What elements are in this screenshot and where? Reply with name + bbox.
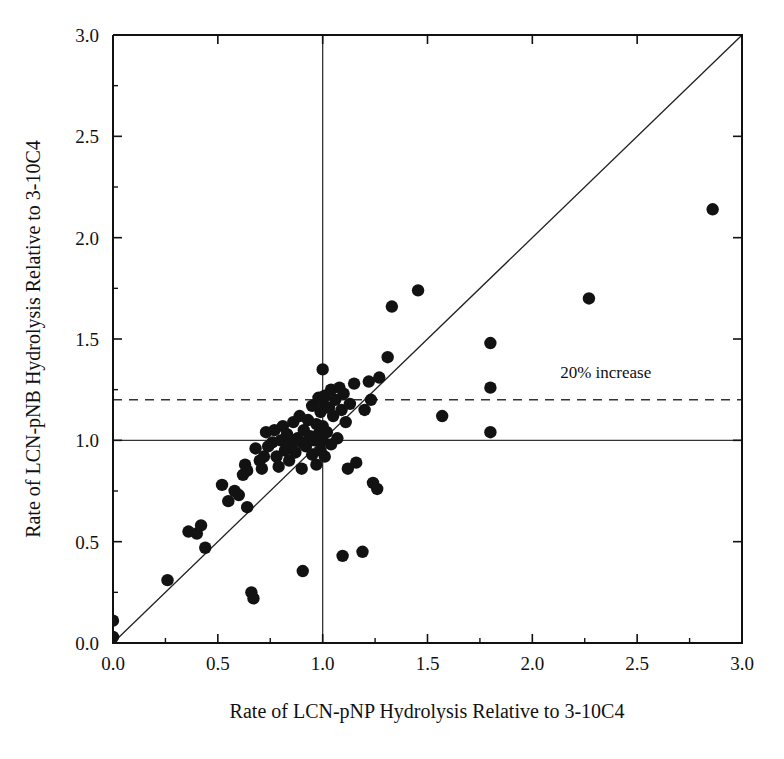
data-point: [484, 381, 496, 393]
x-tick-label: 2.5: [625, 653, 649, 674]
data-point: [365, 394, 377, 406]
y-tick-label: 2.0: [75, 228, 99, 249]
data-point: [356, 546, 368, 558]
data-point: [256, 463, 268, 475]
twenty-percent-increase-label: 20% increase: [560, 363, 651, 382]
data-point: [161, 574, 173, 586]
data-point: [216, 479, 228, 491]
data-point: [331, 432, 343, 444]
data-point: [316, 363, 328, 375]
data-point: [381, 351, 393, 363]
data-point: [297, 565, 309, 577]
y-tick-label: 0.5: [75, 532, 99, 553]
data-point: [195, 519, 207, 531]
x-tick-label: 2.0: [520, 653, 544, 674]
data-point: [272, 460, 284, 472]
data-point: [436, 410, 448, 422]
y-axis-tick-labels-group: 0.00.51.01.52.02.53.0: [75, 25, 99, 654]
data-point: [350, 456, 362, 468]
data-point: [336, 550, 348, 562]
annotations-group: 20% increase: [560, 363, 651, 382]
data-point: [484, 337, 496, 349]
y-tick-label: 2.5: [75, 126, 99, 147]
plot-canvas: 0.00.51.01.52.02.53.0 0.00.51.01.52.02.5…: [0, 0, 784, 759]
data-point: [412, 284, 424, 296]
data-point: [321, 426, 333, 438]
y-tick-label: 1.5: [75, 329, 99, 350]
data-point: [199, 542, 211, 554]
data-point: [348, 377, 360, 389]
x-tick-label: 3.0: [730, 653, 754, 674]
data-point: [241, 501, 253, 513]
data-point: [583, 292, 595, 304]
x-axis-title: Rate of LCN-pNP Hydrolysis Relative to 3…: [230, 700, 625, 723]
data-point: [296, 463, 308, 475]
y-tick-label: 3.0: [75, 25, 99, 46]
data-point: [344, 398, 356, 410]
data-point: [386, 300, 398, 312]
data-point: [247, 592, 259, 604]
y-axis-title: Rate of LCN-pNB Hydrolysis Relative to 3…: [22, 140, 45, 538]
y-tick-label: 0.0: [75, 633, 99, 654]
scatter-plot-figure: 0.00.51.01.52.02.53.0 0.00.51.01.52.02.5…: [0, 0, 784, 759]
x-tick-label: 1.5: [416, 653, 440, 674]
data-point: [233, 489, 245, 501]
data-point: [484, 426, 496, 438]
x-tick-label: 0.0: [101, 653, 125, 674]
data-point: [340, 416, 352, 428]
y-tick-label: 1.0: [75, 430, 99, 451]
data-point: [319, 450, 331, 462]
data-point: [241, 465, 253, 477]
x-tick-label: 1.0: [311, 653, 335, 674]
data-point: [371, 483, 383, 495]
data-point: [706, 203, 718, 215]
x-axis-tick-labels-group: 0.00.51.01.52.02.53.0: [101, 653, 754, 674]
x-tick-label: 0.5: [206, 653, 230, 674]
data-point: [373, 371, 385, 383]
